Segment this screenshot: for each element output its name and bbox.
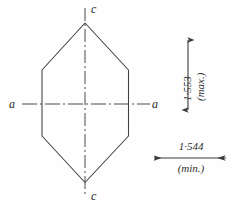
horizontal-dimension-qualifier-wrap: (min.) (160, 163, 222, 175)
horizontal-dimension-qualifier: (min.) (160, 163, 222, 175)
c-axis-label-bottom: c (91, 190, 96, 202)
vertical-dimension-qualifier: (max.) (195, 73, 207, 101)
horizontal-dimension-value: 1·544 (160, 141, 222, 153)
vertical-dimension-qualifier-wrap: (max.) (195, 73, 207, 101)
horizontal-dimension-value-wrap: 1·544 (160, 141, 222, 153)
crystal-diagram-figure: c c a a 1·553 (max.) 1·544 (min.) (0, 0, 232, 207)
a-axis-label-left: a (9, 98, 15, 110)
c-axis-label-top: c (91, 3, 96, 15)
vertical-dimension-value: 1·553 (182, 76, 194, 101)
a-axis-label-right: a (152, 98, 158, 110)
figure-drawing-canvas (0, 0, 232, 207)
vertical-dimension-label: 1·553 (182, 76, 194, 101)
